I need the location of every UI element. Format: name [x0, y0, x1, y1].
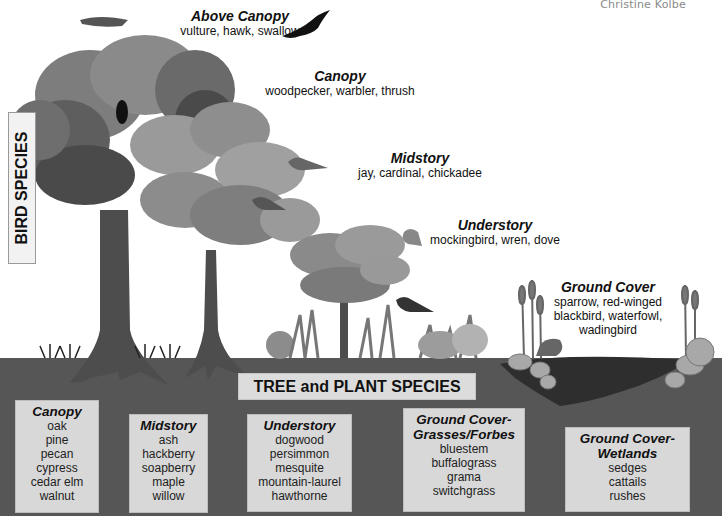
zone-title: Midstory	[340, 150, 500, 166]
plant-box-title: Wetlands	[566, 446, 689, 461]
bird-zone-above-canopy: Above Canopy vulture, hawk, swallow	[150, 8, 330, 38]
mid-tree-canopy-icon	[130, 102, 320, 245]
plant-item: pine	[16, 433, 98, 447]
plant-item: mountain-laurel	[248, 475, 351, 489]
plant-box-title: Understory	[248, 418, 351, 433]
bird-species-text: BIRD SPECIES	[13, 132, 31, 245]
wren-icon	[396, 297, 434, 312]
plant-box-title: Canopy	[16, 404, 98, 419]
plant-box-midstory: Midstory ash hackberry soapberry maple w…	[129, 414, 208, 513]
plant-item: soapberry	[130, 461, 207, 475]
plant-item: cedar elm	[16, 475, 98, 489]
woodpecker-icon	[116, 100, 128, 124]
plant-item: mesquite	[248, 461, 351, 475]
plant-item: willow	[130, 489, 207, 503]
zone-birds: jay, cardinal, chickadee	[340, 166, 500, 180]
zone-title: Above Canopy	[150, 8, 330, 24]
plant-box-title: Midstory	[130, 418, 207, 433]
plant-box-title: Ground Cover-	[404, 412, 524, 427]
plant-box-understory: Understory dogwood persimmon mesquite mo…	[247, 414, 352, 512]
plant-item: cypress	[16, 461, 98, 475]
plant-item: dogwood	[248, 433, 351, 447]
bird-zone-canopy: Canopy woodpecker, warbler, thrush	[250, 68, 430, 98]
plant-item: pecan	[16, 447, 98, 461]
plant-item: grama	[404, 470, 524, 484]
plant-item: cattails	[566, 475, 689, 489]
plant-item: walnut	[16, 489, 98, 503]
tree-plant-species-banner: TREE and PLANT SPECIES	[238, 373, 476, 400]
plant-box-title: Grasses/Forbes	[404, 427, 524, 442]
plant-item: hackberry	[130, 447, 207, 461]
hawk-perched-icon	[80, 17, 128, 27]
understory-tree-trunk-icon	[340, 300, 348, 358]
grasses-forbs-icon	[266, 305, 488, 359]
plant-item: sedges	[566, 461, 689, 475]
plant-item: persimmon	[248, 447, 351, 461]
plant-item: buffalograss	[404, 456, 524, 470]
zone-title: Understory	[410, 217, 580, 233]
artist-credit: Christine Kolbe	[600, 0, 686, 11]
zone-birds: vulture, hawk, swallow	[150, 24, 330, 38]
zone-birds-line: blackbird, waterfowl,	[545, 309, 671, 323]
plant-item: bluestem	[404, 442, 524, 456]
plant-box-canopy: Canopy oak pine pecan cypress cedar elm …	[15, 400, 99, 513]
understory-tree-canopy-icon	[290, 225, 410, 303]
zone-title: Canopy	[250, 68, 430, 84]
bird-zone-midstory: Midstory jay, cardinal, chickadee	[340, 150, 500, 180]
plant-item: ash	[130, 433, 207, 447]
zone-birds: mockingbird, wren, dove	[410, 233, 580, 247]
plant-box-title: Ground Cover-	[566, 431, 689, 446]
plant-item: maple	[130, 475, 207, 489]
plant-item: oak	[16, 419, 98, 433]
plant-box-grasses-forbes: Ground Cover- Grasses/Forbes bluestem bu…	[403, 408, 525, 512]
plant-box-wetlands: Ground Cover- Wetlands sedges cattails r…	[565, 427, 690, 512]
zone-birds: woodpecker, warbler, thrush	[250, 84, 430, 98]
plant-item: rushes	[566, 489, 689, 503]
zone-birds-line: sparrow, red-winged	[545, 295, 671, 309]
bird-zone-ground-cover: Ground Cover sparrow, red-winged blackbi…	[545, 279, 671, 337]
bird-species-label: BIRD SPECIES	[8, 112, 36, 264]
bird-zone-understory: Understory mockingbird, wren, dove	[410, 217, 580, 247]
plant-item: hawthorne	[248, 489, 351, 503]
zone-birds-line: wadingbird	[545, 323, 671, 337]
plant-item: switchgrass	[404, 484, 524, 498]
zone-title: Ground Cover	[545, 279, 671, 295]
